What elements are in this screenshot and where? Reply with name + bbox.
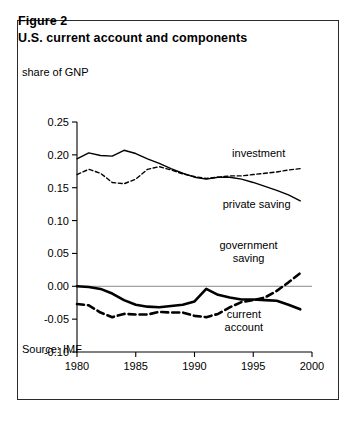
x-axis-tick-label: 2000: [300, 360, 324, 372]
x-axis-tick-label: 1995: [241, 360, 265, 372]
y-axis-tick-label: 0.20: [48, 149, 69, 161]
series-annotation-government-saving: government: [220, 239, 278, 251]
chart-plot-area: -0.10-0.050.000.050.100.150.200.25198019…: [0, 0, 322, 380]
series-annotation-government-saving: saving: [233, 252, 265, 264]
x-axis-tick-label: 1980: [65, 360, 89, 372]
x-axis-tick-label: 1985: [124, 360, 148, 372]
y-axis-tick-label: 0.10: [48, 215, 69, 227]
series-annotation-private-saving: private saving: [223, 198, 291, 210]
series-private-saving: [77, 167, 300, 184]
y-axis-tick-label: 0.00: [48, 280, 69, 292]
y-axis-tick-label: 0.25: [48, 116, 69, 128]
line-chart-svg: -0.10-0.050.000.050.100.150.200.25198019…: [0, 0, 356, 423]
y-axis-tick-label: 0.05: [48, 247, 69, 259]
y-axis-tick-label: -0.05: [44, 313, 69, 325]
y-axis-tick-label: 0.15: [48, 182, 69, 194]
y-axis-tick-label: -0.10: [44, 346, 69, 358]
series-annotation-current-account: account: [225, 321, 264, 333]
x-axis-tick-label: 1990: [182, 360, 206, 372]
series-annotation-investment: investment: [232, 147, 285, 159]
series-annotation-current-account: current: [227, 308, 261, 320]
series-government-saving: [77, 273, 300, 317]
